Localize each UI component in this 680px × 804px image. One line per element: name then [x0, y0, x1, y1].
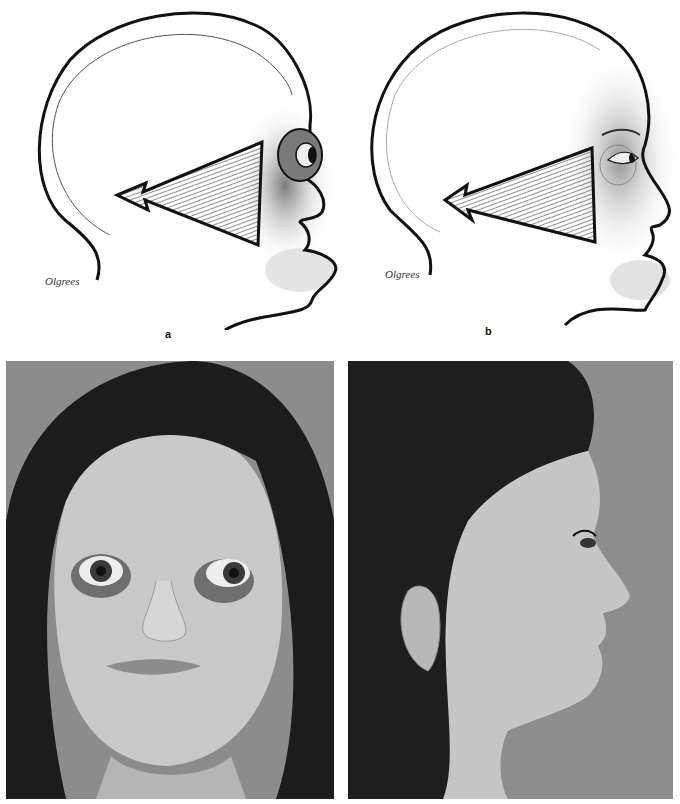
photo-profile	[348, 361, 673, 799]
panel-label-a: a	[165, 328, 171, 340]
photo-frontal	[6, 361, 334, 799]
drawing-panel-a: Olgrees a	[0, 0, 340, 330]
drawing-panel-b: Olgrees b	[340, 0, 680, 330]
head-profile-drawing-a: Olgrees	[0, 0, 340, 330]
panel-label-b: b	[485, 325, 492, 337]
figure: Olgrees a	[0, 0, 680, 804]
artist-signature-a: Olgrees	[45, 275, 79, 287]
head-profile-drawing-b: Olgrees	[340, 0, 680, 330]
artist-signature-b: Olgrees	[385, 268, 419, 280]
profile-portrait-photo	[348, 361, 673, 799]
frontal-portrait-photo	[6, 361, 334, 799]
